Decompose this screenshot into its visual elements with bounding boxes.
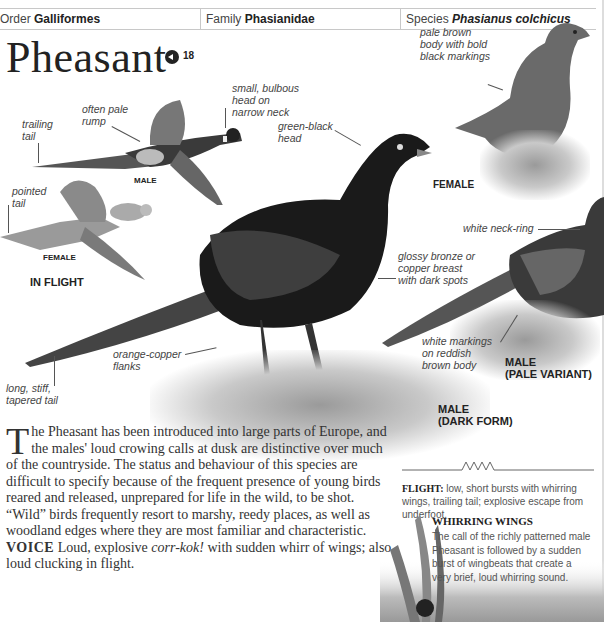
- leader-line: [8, 205, 9, 233]
- whirring-wings-title: WHIRRING WINGS: [432, 515, 533, 527]
- caption-male-pale: MALE(PALE VARIANT): [505, 356, 592, 380]
- family-value: Phasianidae: [245, 12, 315, 26]
- voice-call: corr-kok!: [151, 540, 204, 555]
- drop-cap: T: [6, 426, 29, 456]
- flight-pattern-icon: [402, 458, 594, 474]
- annotation-white-neck-ring: white neck-ring: [463, 222, 534, 234]
- leader-line: [54, 356, 55, 386]
- annotation-small-head: small, bulboushead onnarrow neck: [232, 82, 299, 118]
- speaker-icon[interactable]: [165, 50, 179, 64]
- leader-line: [225, 108, 226, 128]
- annotation-orange-flanks: orange-copperflanks: [113, 348, 181, 372]
- annotation-pale-rump: often palerump: [82, 103, 128, 127]
- divider: [400, 9, 401, 29]
- voice-label: VOICE: [6, 540, 54, 555]
- caption-in-flight: IN FLIGHT: [30, 276, 84, 288]
- annotation-long-tail: long, stiff,tapered tail: [6, 382, 58, 406]
- flight-label: FLIGHT:: [402, 483, 443, 494]
- annotation-glossy-breast: glossy bronze orcopper breastwith dark s…: [398, 250, 475, 286]
- caption-flight-male: MALE: [134, 175, 157, 187]
- whirring-wings-text: The call of the richly patterned male Ph…: [432, 530, 592, 584]
- annotation-pointed-tail: pointedtail: [12, 185, 46, 209]
- leader-line: [38, 143, 39, 163]
- audio-track-number: 18: [183, 50, 194, 61]
- caption-flight-female: FEMALE: [43, 252, 76, 264]
- leader-line: [378, 278, 396, 279]
- leader-line: [538, 229, 580, 230]
- family-cell: Family Phasianidae: [206, 9, 315, 29]
- annotation-trailing-tail: trailingtail: [22, 118, 53, 142]
- ground-female: [480, 130, 590, 200]
- annotation-female-body: pale brownbody with boldblack markings: [420, 26, 490, 62]
- order-value: Galliformes: [34, 12, 100, 26]
- order-cell: Order Galliformes: [0, 9, 100, 29]
- annotation-white-markings: white markingson reddishbrown body: [422, 335, 492, 371]
- page-title: Pheasant: [6, 32, 166, 83]
- caption-female: FEMALE: [433, 179, 474, 191]
- species-description: The Pheasant has been introduced into la…: [6, 424, 396, 573]
- caption-male-dark: MALE(DARK FORM): [438, 403, 513, 427]
- annotation-green-black-head: green-blackhead: [278, 120, 333, 144]
- divider: [200, 9, 201, 29]
